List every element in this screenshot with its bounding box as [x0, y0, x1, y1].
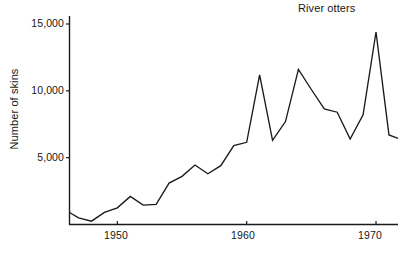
chart-figure: River otters Number of skins 15,000 10,0… — [0, 0, 409, 253]
y-tick-label-10000: 10,000 — [18, 84, 64, 96]
x-tick-label-1970: 1970 — [348, 229, 392, 241]
x-tick-label-1960: 1960 — [221, 229, 265, 241]
series-line-river-otters — [70, 32, 399, 221]
y-tick-label-5000: 5,000 — [18, 151, 64, 163]
y-tick-label-15000: 15,000 — [18, 17, 64, 29]
x-tick-label-1950: 1950 — [94, 229, 138, 241]
line-chart-canvas — [0, 0, 409, 253]
chart-title: River otters — [298, 2, 355, 14]
